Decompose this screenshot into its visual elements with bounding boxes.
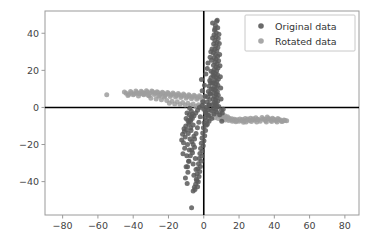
- data-point: [179, 137, 184, 142]
- data-point: [167, 101, 172, 106]
- data-point: [206, 60, 211, 65]
- data-point: [205, 122, 210, 127]
- x-tick-label: −80: [53, 220, 73, 231]
- legend-label-rotated-data: Rotated data: [275, 36, 337, 47]
- data-point: [219, 119, 224, 124]
- data-point: [215, 18, 220, 23]
- data-point: [104, 92, 109, 97]
- data-point: [203, 94, 208, 99]
- x-tick-label: 40: [268, 220, 280, 231]
- data-point: [217, 52, 222, 57]
- data-point: [193, 156, 198, 161]
- data-point: [195, 125, 200, 130]
- data-point: [244, 119, 249, 124]
- data-point: [135, 91, 140, 96]
- data-point: [162, 95, 167, 100]
- data-point: [183, 175, 188, 180]
- y-tick-label: −40: [19, 176, 39, 187]
- data-point: [149, 89, 154, 94]
- data-point: [264, 119, 269, 124]
- data-point: [172, 101, 177, 106]
- data-point: [160, 90, 165, 95]
- data-point: [192, 93, 197, 98]
- data-point: [218, 85, 223, 90]
- data-point: [210, 35, 215, 40]
- data-point: [177, 102, 182, 107]
- data-point: [210, 21, 215, 26]
- legend-label-original-data: Original data: [275, 21, 337, 32]
- data-point: [188, 153, 193, 158]
- scatter-plot-figure: −80−60−40−20020406080−40−2002040Original…: [0, 0, 377, 247]
- data-point: [196, 120, 201, 125]
- x-tick-label: −20: [158, 220, 178, 231]
- data-point: [207, 102, 212, 107]
- y-tick-label: 0: [33, 102, 39, 113]
- data-point: [170, 90, 175, 95]
- y-tick-label: 20: [27, 65, 39, 76]
- data-point: [186, 122, 191, 127]
- data-point: [191, 162, 196, 167]
- data-point: [186, 159, 191, 164]
- data-point: [274, 119, 279, 124]
- data-point: [208, 55, 213, 60]
- data-point: [203, 72, 208, 77]
- data-point: [156, 94, 161, 99]
- data-point: [183, 103, 188, 108]
- data-point: [191, 142, 196, 147]
- data-point: [182, 146, 187, 151]
- data-point: [189, 148, 194, 153]
- data-point: [176, 91, 181, 96]
- x-tick-label: 0: [201, 220, 207, 231]
- data-point: [212, 111, 217, 116]
- data-point: [180, 132, 185, 137]
- data-point: [216, 32, 221, 37]
- data-point: [216, 104, 221, 109]
- x-tick-label: −40: [123, 220, 143, 231]
- data-point: [185, 111, 190, 116]
- data-point: [199, 77, 204, 82]
- data-point: [180, 151, 185, 156]
- data-point: [122, 90, 127, 95]
- data-point: [200, 88, 205, 93]
- legend-marker-original-data: [258, 23, 264, 29]
- legend-marker-rotated-data: [258, 38, 264, 44]
- data-point: [249, 119, 254, 124]
- data-point: [254, 119, 259, 124]
- data-point: [205, 66, 210, 71]
- data-point: [165, 90, 170, 95]
- data-point: [140, 92, 145, 97]
- data-point: [186, 92, 191, 97]
- data-point: [189, 109, 194, 114]
- data-point: [208, 80, 213, 85]
- x-tick-label: −60: [88, 220, 108, 231]
- data-point: [194, 167, 199, 172]
- data-point: [184, 116, 189, 121]
- data-point: [194, 178, 199, 183]
- plot-canvas: −80−60−40−20020406080−40−2002040Original…: [0, 0, 377, 247]
- y-tick-label: 40: [27, 28, 39, 39]
- data-point: [194, 131, 199, 136]
- data-point: [182, 126, 187, 131]
- data-point: [198, 114, 203, 119]
- x-tick-label: 20: [233, 220, 245, 231]
- data-point: [207, 91, 212, 96]
- data-point: [218, 74, 223, 79]
- data-point: [217, 63, 222, 68]
- data-point: [213, 26, 218, 31]
- data-point: [185, 164, 190, 169]
- data-point: [233, 119, 238, 124]
- y-tick-label: −20: [19, 139, 39, 150]
- data-point: [192, 136, 197, 141]
- data-point: [155, 89, 160, 94]
- data-point: [208, 49, 213, 54]
- data-point: [189, 205, 194, 210]
- data-point: [185, 170, 190, 175]
- data-point: [217, 41, 222, 46]
- x-tick-label: 60: [304, 220, 316, 231]
- x-tick-label: 80: [339, 220, 351, 231]
- data-point: [192, 185, 197, 190]
- data-point: [269, 119, 274, 124]
- data-point: [128, 89, 133, 94]
- data-point: [191, 173, 196, 178]
- data-point: [202, 83, 207, 88]
